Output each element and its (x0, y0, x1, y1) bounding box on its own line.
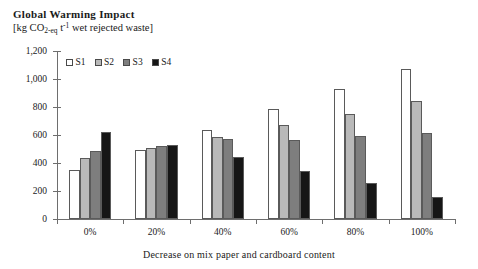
bar-s3-20pct[interactable] (156, 146, 167, 219)
bar-group-60pct (256, 51, 322, 219)
x-axis-separator-tick (389, 219, 390, 224)
x-axis-tick-label: 40% (214, 227, 231, 237)
bar-s2-40pct[interactable] (212, 137, 223, 219)
x-axis-separator-tick (190, 219, 191, 224)
y-axis-label: 0 (42, 214, 47, 224)
y-axis-label: 800 (33, 102, 47, 112)
bar-s3-0pct[interactable] (90, 151, 101, 219)
bar-s1-0pct[interactable] (69, 170, 80, 219)
y-axis-label: 600 (33, 130, 47, 140)
y-axis-label: 1,000 (26, 74, 47, 84)
subtitle-prefix: [kg CO (13, 22, 44, 33)
bar-s1-40pct[interactable] (202, 130, 213, 219)
bar-group-80pct (322, 51, 388, 219)
global-warming-impact-chart: Global Warming Impact [kg CO2-eq t-1 wet… (0, 0, 478, 269)
x-axis-tick-label: 20% (148, 227, 165, 237)
bar-s2-0pct[interactable] (80, 158, 91, 219)
x-axis-separator-tick (455, 219, 456, 224)
y-axis-label: 1,200 (26, 46, 47, 56)
chart-title: Global Warming Impact (13, 8, 153, 21)
x-axis-separator-tick (123, 219, 124, 224)
x-axis-separator-tick (322, 219, 323, 224)
subtitle-suffix: wet rejected waste] (69, 22, 153, 33)
x-axis-tick-label: 100% (411, 227, 433, 237)
bar-group-0pct (57, 51, 123, 219)
plot-area: 02004006008001,0001,200 0%20%40%60%80%10… (57, 51, 455, 219)
bar-s4-0pct[interactable] (101, 132, 112, 219)
bar-s3-80pct[interactable] (355, 136, 366, 219)
bar-s2-60pct[interactable] (279, 125, 290, 219)
bar-s1-100pct[interactable] (401, 69, 412, 219)
x-axis-tick-label: 60% (280, 227, 297, 237)
bar-group-40pct (190, 51, 256, 219)
bar-group-100pct (389, 51, 455, 219)
bar-s1-80pct[interactable] (334, 89, 345, 219)
bar-s3-40pct[interactable] (223, 139, 234, 219)
x-axis-tick-label: 0% (84, 227, 97, 237)
bar-s4-80pct[interactable] (366, 183, 377, 219)
bar-s4-60pct[interactable] (300, 171, 311, 219)
title-block: Global Warming Impact [kg CO2-eq t-1 wet… (13, 8, 153, 36)
bar-s3-60pct[interactable] (289, 140, 300, 219)
x-axis-separator-tick (256, 219, 257, 224)
bar-group-20pct (123, 51, 189, 219)
y-axis-label: 200 (33, 186, 47, 196)
bar-s2-80pct[interactable] (345, 114, 356, 219)
bar-s1-20pct[interactable] (135, 150, 146, 219)
chart-subtitle: [kg CO2-eq t-1 wet rejected waste] (13, 22, 153, 36)
bar-s4-100pct[interactable] (432, 197, 443, 219)
x-axis-tick-label: 80% (347, 227, 364, 237)
bar-s2-20pct[interactable] (146, 148, 157, 219)
bar-s4-20pct[interactable] (167, 145, 178, 219)
x-axis-title: Decrease on mix paper and cardboard cont… (0, 249, 478, 260)
x-axis-line (53, 219, 455, 220)
bar-s2-100pct[interactable] (411, 101, 422, 219)
bar-s1-60pct[interactable] (268, 109, 279, 219)
x-axis-separator-tick (57, 219, 58, 224)
y-axis-label: 400 (33, 158, 47, 168)
bar-s3-100pct[interactable] (422, 133, 433, 219)
bar-s4-40pct[interactable] (233, 157, 244, 219)
subtitle-subscript: 2-eq (44, 26, 57, 35)
